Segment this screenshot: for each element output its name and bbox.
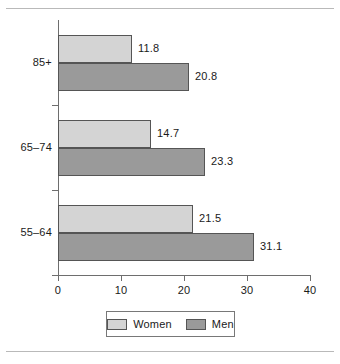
legend-label: Men [212,318,234,330]
y-axis-tick [52,190,59,191]
y-axis-tick [52,275,59,276]
category-label-0: 85+ [33,56,52,68]
x-axis-tick [310,275,311,281]
x-axis-tick [121,275,122,281]
category-label-2: 55–64 [20,226,52,238]
bar-men-0 [58,63,189,91]
legend-item-men: Men [186,318,234,330]
top-divider-rule [6,8,334,9]
x-axis-tick-label: 10 [101,284,141,296]
bar-value-label: 21.5 [199,212,221,224]
legend-label: Women [133,318,172,330]
bar-value-label: 11.8 [138,42,159,54]
legend-item-women: Women [107,318,172,330]
chart-figure: WomenMen 01020304085+11.820.865–7414.723… [0,0,340,364]
bottom-divider-rule [6,351,334,352]
x-axis-tick-label: 0 [38,284,78,296]
legend-swatch-icon [107,319,127,330]
bar-women-1 [58,120,151,148]
bar-value-label: 23.3 [211,155,233,167]
bar-men-1 [58,148,205,176]
category-label-1: 65–74 [20,141,52,153]
x-axis-tick [184,275,185,281]
bar-value-label: 31.1 [260,240,282,252]
bar-women-0 [58,35,132,63]
bar-value-label: 20.8 [195,70,217,82]
chart-legend: WomenMen [106,311,235,337]
x-axis-tick-label: 40 [290,284,330,296]
x-axis-tick-label: 20 [164,284,204,296]
y-axis-tick [52,105,59,106]
bar-value-label: 14.7 [157,127,179,139]
x-axis-tick [247,275,248,281]
bar-men-2 [58,233,254,261]
legend-swatch-icon [186,319,206,330]
bar-women-2 [58,205,193,233]
x-axis-tick-label: 30 [227,284,267,296]
